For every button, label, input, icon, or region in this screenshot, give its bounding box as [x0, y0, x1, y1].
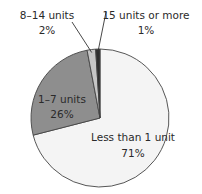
slice-value-15-units-or-more: 1%	[138, 24, 155, 36]
leader-line-8-14-units	[72, 22, 92, 53]
slice-label-8-14-units: 8–14 units	[20, 9, 74, 21]
leader-lines	[72, 12, 106, 53]
slice-value-8-14-units: 2%	[39, 24, 56, 36]
slice-value-1-7-units: 26%	[50, 108, 73, 120]
slice-label-less-than-1-unit: Less than 1 unit	[91, 131, 175, 143]
slice-value-less-than-1-unit: 71%	[121, 147, 144, 159]
slice-label-15-units-or-more: 15 units or more	[102, 9, 189, 21]
slice-label-1-7-units: 1–7 units	[38, 93, 86, 105]
pie-chart: Less than 1 unit 71% 1–7 units 26% 8–14 …	[0, 0, 202, 194]
